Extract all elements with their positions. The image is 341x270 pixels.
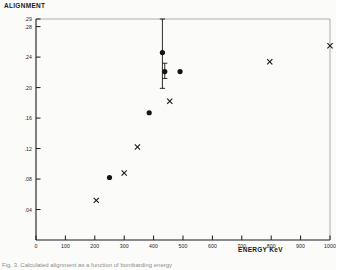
data-point-circle-4 [177, 69, 182, 74]
data-point-circle-1 [147, 110, 152, 115]
x-tick-label-600: 600 [198, 243, 226, 249]
x-tick-label-400: 400 [140, 243, 168, 249]
x-tick-label-200: 200 [81, 243, 109, 249]
y-tick-label-29: .29 [6, 16, 32, 22]
x-tick-label-900: 900 [287, 243, 315, 249]
y-tick-label-16: .16 [6, 115, 32, 121]
x-tick-label-700: 700 [228, 243, 256, 249]
data-point-circle-0 [107, 175, 112, 180]
y-tick-label-28: .28 [6, 24, 32, 30]
y-tick-label-08: .08 [6, 176, 32, 182]
x-tick-label-1000: 1000 [316, 243, 341, 249]
data-point-circle-2 [160, 50, 165, 55]
x-tick-label-500: 500 [169, 243, 197, 249]
y-tick-label-04: .04 [6, 207, 32, 213]
x-tick-label-800: 800 [257, 243, 285, 249]
y-tick-label-12: .12 [6, 146, 32, 152]
figure-caption: Fig. 3. Calculated alignment as a functi… [2, 262, 334, 270]
x-tick-label-0: 0 [22, 243, 50, 249]
y-tick-label-24: .24 [6, 54, 32, 60]
x-tick-label-100: 100 [51, 243, 79, 249]
y-axis-title: ALIGNMENT [4, 2, 45, 9]
x-tick-label-300: 300 [110, 243, 138, 249]
y-tick-label-20: .20 [6, 85, 32, 91]
data-point-circle-3 [162, 69, 167, 74]
